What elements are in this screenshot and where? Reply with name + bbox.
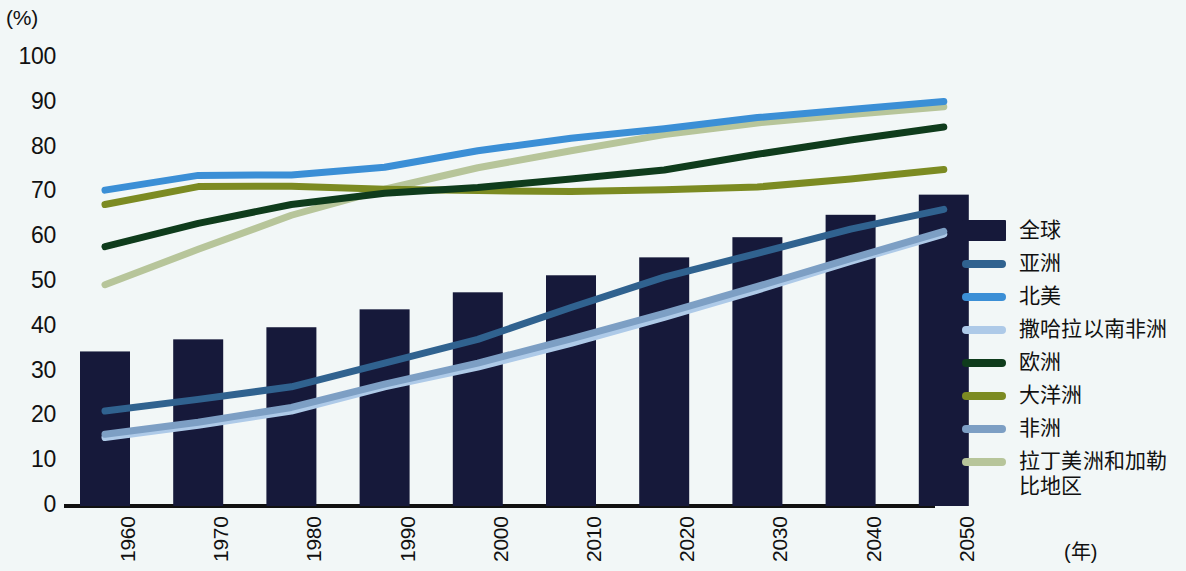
chart-page: (%) 100908070605040302010019601970198019… — [0, 0, 1186, 571]
legend-item-label: 北美 — [1019, 284, 1061, 309]
legend-item[interactable]: 撒哈拉以南非洲 — [962, 317, 1186, 343]
legend-item-label: 拉丁美洲和加勒 比地区 — [1019, 449, 1167, 499]
legend-item-label: 撒哈拉以南非洲 — [1019, 317, 1167, 342]
bar — [732, 237, 782, 506]
series-line — [105, 231, 944, 434]
legend-item[interactable]: 全球 — [962, 218, 1186, 244]
legend-item[interactable]: 非洲 — [962, 416, 1186, 442]
series-line — [105, 234, 944, 437]
legend-swatch-icon — [962, 260, 1006, 268]
legend-item-label: 亚洲 — [1019, 251, 1061, 276]
bar — [453, 292, 503, 506]
legend-item[interactable]: 北美 — [962, 284, 1186, 310]
legend-swatch-icon — [962, 220, 1006, 241]
legend-item-label: 欧洲 — [1019, 350, 1061, 375]
legend-swatch-icon — [962, 293, 1006, 301]
chart-legend: 全球亚洲北美撒哈拉以南非洲欧洲大洋洲非洲拉丁美洲和加勒 比地区 — [962, 218, 1186, 506]
legend-swatch-icon — [962, 458, 1006, 466]
bar — [360, 309, 410, 506]
legend-swatch-icon — [962, 326, 1006, 334]
x-axis-unit: (年) — [1064, 536, 1097, 565]
legend-item[interactable]: 欧洲 — [962, 350, 1186, 376]
bar — [639, 257, 689, 506]
legend-swatch-icon — [962, 392, 1006, 400]
legend-item[interactable]: 大洋洲 — [962, 383, 1186, 409]
lines-group — [105, 101, 944, 437]
legend-item[interactable]: 拉丁美洲和加勒 比地区 — [962, 449, 1186, 499]
legend-item-label: 非洲 — [1019, 416, 1061, 441]
legend-item[interactable]: 亚洲 — [962, 251, 1186, 277]
legend-item-label: 全球 — [1019, 218, 1061, 243]
series-line — [105, 107, 944, 285]
legend-swatch-icon — [962, 425, 1006, 433]
legend-swatch-icon — [962, 359, 1006, 367]
legend-item-label: 大洋洲 — [1019, 383, 1083, 408]
